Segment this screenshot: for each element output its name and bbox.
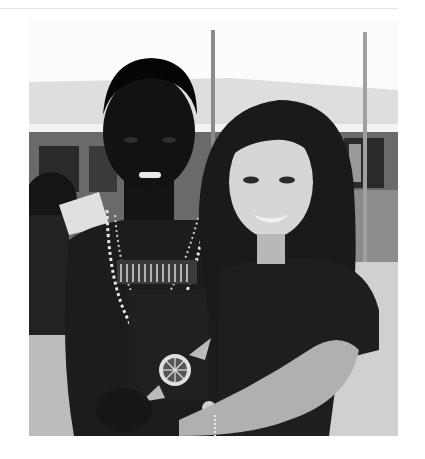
- photo: [29, 20, 398, 436]
- top-divider: [0, 8, 398, 9]
- photo-illustration: [29, 20, 398, 436]
